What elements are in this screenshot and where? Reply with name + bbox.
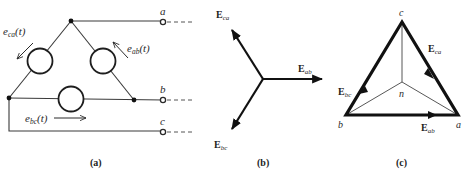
panel-c-phasor-triangle: c b a n Eca Ebc Eab (c) [338, 7, 461, 169]
wire-bottom [9, 98, 164, 100]
panel-a-delta-circuit: a b c eca(t) eab(t) ebc(t) (a) [3, 5, 194, 169]
terminal-c [160, 129, 165, 134]
node-top [69, 19, 74, 24]
source-ca [28, 49, 53, 74]
vertex-label-a: a [456, 119, 461, 130]
source-ab [91, 49, 116, 74]
caption-c: (c) [396, 157, 407, 169]
wire-to-c [9, 98, 163, 131]
vertex-label-b: b [338, 119, 343, 130]
label-Eab-b: Eab [298, 63, 312, 76]
panel-b-phasor-star: Eca Eab Ebc (b) [214, 9, 322, 169]
source-bc [59, 87, 84, 112]
label-eca: eca(t) [3, 25, 26, 39]
label-ebc: ebc(t) [25, 112, 48, 126]
label-eab: eab(t) [127, 42, 150, 56]
label-Eca-b: Eca [216, 9, 230, 22]
phasor-ebc-icon [232, 79, 263, 129]
terminal-label-c: c [160, 115, 165, 127]
node-left [7, 96, 12, 101]
label-Eab-c: Eab [421, 122, 435, 135]
terminal-b [160, 97, 165, 102]
node-right [132, 98, 137, 103]
label-Ebc-b: Ebc [214, 139, 228, 152]
vertex-label-c: c [399, 7, 404, 18]
terminal-label-b: b [160, 83, 166, 95]
label-Eca-c: Eca [428, 43, 442, 56]
label-Ebc-c: Ebc [338, 86, 352, 99]
caption-a: (a) [90, 157, 102, 169]
arrow-Eab-icon [428, 111, 437, 119]
three-phase-delta-figure: a b c eca(t) eab(t) ebc(t) (a) Eca Eab E… [0, 0, 464, 181]
phasor-eca-icon [232, 30, 263, 79]
caption-b: (b) [257, 157, 269, 169]
terminal-label-a: a [160, 5, 166, 17]
vertex-label-n: n [399, 88, 404, 99]
terminal-a [160, 19, 165, 24]
